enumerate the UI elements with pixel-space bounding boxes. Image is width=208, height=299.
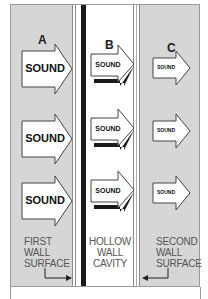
pointer-arrow-left-icon	[140, 268, 170, 282]
sound-label: SOUND	[154, 127, 178, 133]
sound-arrow-small: SOUND	[152, 113, 192, 149]
sound-arrow-medium: SOUND	[90, 44, 136, 90]
sound-label: SOUND	[93, 125, 123, 132]
sound-arrow-large: SOUND	[21, 43, 73, 95]
sound-label: SOUND	[25, 194, 65, 206]
sound-arrow-large: SOUND	[21, 113, 73, 165]
caption-hollow-cavity: HOLLOW WALL CAVITY	[88, 236, 132, 269]
sound-label: SOUND	[93, 187, 123, 194]
sound-arrow-small: SOUND	[152, 50, 192, 86]
sound-label: SOUND	[154, 189, 178, 195]
pointer-arrow-right-icon	[44, 268, 74, 282]
sound-arrow-small: SOUND	[152, 175, 192, 211]
bottom-edge-line	[200, 287, 201, 299]
sound-label: SOUND	[25, 62, 65, 74]
sound-label: SOUND	[25, 132, 65, 144]
caption-first-wall: FIRST WALL SURFACE	[24, 236, 70, 269]
sound-label: SOUND	[154, 64, 178, 70]
sound-arrow-medium: SOUND	[90, 108, 136, 154]
sound-arrow-medium: SOUND	[90, 170, 136, 216]
sound-label: SOUND	[93, 61, 123, 68]
caption-second-wall: SECOND WALL SURFACE	[156, 236, 202, 269]
bottom-edge-line	[10, 287, 11, 299]
sound-arrow-large: SOUND	[21, 175, 73, 227]
